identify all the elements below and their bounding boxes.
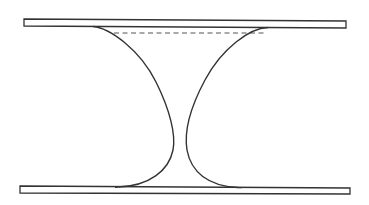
liquid-bridge-diagram [0, 0, 369, 205]
bottom-plate [20, 186, 350, 194]
background [0, 0, 369, 205]
diagram-canvas [0, 0, 369, 205]
top-plate [24, 19, 346, 28]
